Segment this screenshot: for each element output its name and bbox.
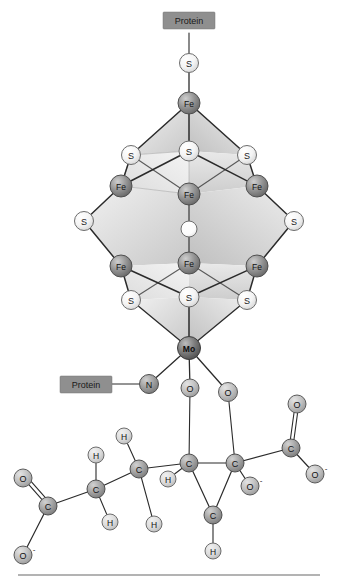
atom-o-mo-1: O: [181, 379, 199, 397]
atom-label-fe: Fe: [252, 262, 262, 272]
atom-label-s: S: [291, 217, 297, 227]
atom-o-right-anion: O -: [306, 464, 328, 484]
atom-o-middle-anion: O -: [241, 476, 263, 496]
atom-interstitial-center: [181, 221, 197, 237]
atom-c-carboxyl-left: C: [39, 497, 57, 515]
atom-h-ch2-b-up: H: [88, 447, 104, 463]
atom-label-c: C: [136, 465, 143, 475]
atom-label-n: N: [146, 380, 153, 390]
atom-label-c: C: [93, 485, 100, 495]
atom-label-h: H: [121, 432, 127, 442]
atom-label-h: H: [165, 475, 171, 485]
atom-mo: Mo: [178, 337, 201, 360]
atom-label-mo: Mo: [183, 344, 195, 354]
atom-label-fe: Fe: [184, 190, 194, 200]
atom-label-s: S: [81, 217, 87, 227]
atom-label-c: C: [186, 459, 193, 469]
protein-bottom-text: Protein: [72, 380, 101, 390]
atom-label-fe: Fe: [184, 259, 194, 269]
atom-o-left-anion: O -: [14, 545, 36, 565]
atom-fe-5: Fe: [110, 255, 132, 277]
structure-diagram: Protein Protein S Fe S S S Fe: [0, 0, 339, 583]
charge-minus: -: [325, 464, 328, 473]
homocitrate-atoms: O C O - C C O - H C: [14, 395, 328, 564]
atom-label-o: O: [246, 482, 253, 492]
atom-c-ch2-a: C: [130, 460, 148, 478]
atom-o-right-double: O: [288, 395, 306, 413]
atom-label-s: S: [186, 292, 192, 303]
atom-s-top-right: S: [238, 146, 257, 165]
atom-label-s: S: [186, 146, 192, 157]
atom-o-mo-2: O: [219, 383, 238, 402]
atom-label-o: O: [311, 470, 318, 480]
atom-h-methylene-bridge: H: [205, 543, 221, 559]
atom-label-c: C: [288, 444, 295, 454]
atom-s-cysteine: S: [180, 54, 199, 73]
atom-label-c: C: [232, 459, 239, 469]
atom-s-bottom-middle: S: [179, 287, 199, 307]
atom-label-s: S: [128, 296, 134, 306]
atom-label-c: C: [210, 511, 217, 521]
atom-o-left-double: O: [14, 469, 32, 487]
atom-s-mid-right: S: [285, 212, 304, 231]
atom-c-ch2-b: C: [87, 480, 105, 498]
atom-label-h: H: [151, 520, 157, 530]
atom-label-fe: Fe: [116, 182, 126, 192]
atom-h-ch2-a-up: H: [116, 428, 132, 444]
atom-fe-6: Fe: [178, 252, 200, 274]
atom-fe-2: Fe: [110, 175, 132, 197]
atom-label-s: S: [244, 296, 250, 306]
mo-ligand-bonds: [112, 348, 235, 463]
atom-label-s: S: [244, 151, 250, 161]
atom-label-o: O: [224, 388, 231, 398]
atom-label-h: H: [93, 451, 99, 461]
atom-fe-3: Fe: [178, 183, 200, 205]
protein-top-text: Protein: [175, 16, 204, 26]
atom-label-o: O: [19, 551, 26, 561]
atom-label-fe: Fe: [116, 262, 126, 272]
protein-top-label-group: Protein: [163, 12, 215, 29]
atom-label-fe: Fe: [252, 182, 262, 192]
atom-label-h: H: [107, 518, 113, 528]
atom-h-ch2-a-down: H: [146, 516, 162, 532]
charge-minus: -: [260, 476, 263, 485]
atom-c-carboxyl-right: C: [282, 439, 300, 457]
atom-fe-1: Fe: [178, 92, 200, 114]
atom-s-bottom-right: S: [238, 291, 257, 310]
atom-s-top-left: S: [122, 146, 141, 165]
atom-c-methylene-bridge: C: [204, 506, 222, 524]
atom-s-bottom-left: S: [122, 291, 141, 310]
atom-label-o: O: [293, 400, 300, 410]
atom-label-h: H: [210, 547, 216, 557]
atom-h-alkoxide-left: H: [160, 471, 176, 487]
atom-c-alkoxide: C: [180, 454, 198, 472]
atom-label-o: O: [186, 384, 193, 394]
atom-label-s: S: [128, 151, 134, 161]
atom-label-o: O: [19, 474, 26, 484]
atom-n-histidine: N: [140, 375, 159, 394]
mo-ligand-atoms: N O O: [140, 375, 238, 402]
charge-minus: -: [33, 545, 36, 554]
femo-cofactor-figure: Protein Protein S Fe S S S Fe: [0, 0, 339, 583]
protein-bottom-label-group: Protein: [60, 376, 112, 393]
atom-label-fe: Fe: [184, 99, 194, 109]
atom-h-ch2-b-down: H: [102, 514, 118, 530]
atom-label-c: C: [45, 502, 52, 512]
atom-c-quaternary: C: [226, 454, 244, 472]
atom-s-mid-left: S: [75, 212, 94, 231]
atom-s-top-middle: S: [179, 141, 199, 161]
atom-label-s: S: [186, 59, 192, 69]
atom-fe-7: Fe: [246, 255, 268, 277]
atom-fe-4: Fe: [246, 175, 268, 197]
